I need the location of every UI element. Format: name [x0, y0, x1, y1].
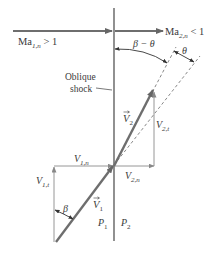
- v1n-label: V1,n: [74, 153, 89, 167]
- theta-label: θ: [182, 45, 187, 56]
- p1-label: P1: [97, 217, 108, 231]
- svg-text:V2: V2: [123, 113, 133, 127]
- v1-label: V1: [93, 197, 103, 213]
- v2-label: V2: [123, 111, 133, 127]
- p2-label: P2: [120, 217, 131, 231]
- oblique-shock-label-line2: shock: [70, 84, 92, 94]
- svg-text:V1: V1: [93, 199, 103, 213]
- beta-minus-theta-label: β − θ: [132, 38, 155, 49]
- ma2-label: Ma2,n < 1: [165, 26, 204, 40]
- shock-label-leader: [96, 88, 112, 90]
- beta-label: β: [62, 203, 68, 214]
- ma1-label: Ma1,n > 1: [18, 36, 57, 50]
- v2t-label: V2,t: [156, 119, 170, 133]
- v1-direction-dashed-line: [114, 56, 200, 165]
- v1t-label: V1,t: [36, 175, 50, 189]
- v2-vector: [114, 90, 153, 166]
- v2n-label: V2,n: [125, 170, 140, 184]
- beta-minus-theta-arc: [115, 49, 167, 63]
- oblique-shock-diagram: Ma1,n > 1 Ma2,n < 1 β − θ θ Oblique shoc…: [0, 0, 218, 258]
- oblique-shock-label-line1: Oblique: [65, 72, 96, 82]
